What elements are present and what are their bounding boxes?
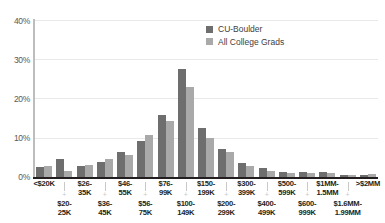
x-axis-labels: <$20K$20- 25K$26- 35K$36- 45K$46- 55K$56…: [34, 180, 378, 223]
x-axis-tick-plus: +: [61, 191, 67, 198]
x-axis-label: $100- 149K: [164, 200, 209, 217]
bar-0: [198, 128, 206, 177]
bar-1: [327, 173, 335, 177]
x-axis-tick-plus: +: [264, 191, 270, 198]
x-axis-tick-plus: +: [102, 191, 108, 198]
bar-1: [44, 166, 52, 177]
x-axis-tick-separator: [348, 182, 349, 191]
bar-group: [135, 20, 155, 177]
x-axis-tick-plus: +: [345, 191, 351, 198]
x-axis-tick-separator: [267, 182, 268, 191]
x-axis-tick-separator: [64, 182, 65, 191]
x-axis-label: $150- 199K: [184, 180, 229, 197]
x-axis-tick-plus: +: [304, 191, 310, 198]
legend-item-all-college-grads: All College Grads: [206, 37, 284, 47]
bar-1: [307, 173, 315, 177]
x-axis-tick-separator: [186, 182, 187, 191]
legend-swatch-icon-cu-boulder: [206, 26, 213, 33]
bar-group: [176, 20, 196, 177]
bar-group: [34, 20, 54, 177]
x-axis-label: $1MM- 1.5MM: [305, 180, 350, 197]
x-axis-tick-separator: [105, 182, 106, 191]
x-axis-tick-separator: [226, 182, 227, 191]
bar-0: [360, 175, 368, 177]
bar-1: [145, 135, 153, 177]
x-axis-label: $600- 999K: [285, 200, 330, 217]
bar-0: [218, 149, 226, 177]
bar-1: [287, 173, 295, 177]
bar-1: [348, 175, 356, 177]
bar-0: [319, 172, 327, 177]
bar-0: [117, 152, 125, 177]
bar-0: [178, 69, 186, 177]
legend-label-cu-boulder: CU-Boulder: [218, 24, 262, 34]
bar-1: [368, 174, 376, 177]
x-axis-label: $200- 299K: [204, 200, 249, 217]
legend-swatch-icon-all-college-grads: [206, 38, 213, 45]
x-axis-label: $300- 399K: [224, 180, 269, 197]
bar-0: [137, 141, 145, 178]
legend-label-all-college-grads: All College Grads: [218, 37, 284, 47]
legend-item-cu-boulder: CU-Boulder: [206, 24, 284, 34]
y-axis-label-30: 30%: [0, 55, 30, 65]
bar-1: [166, 121, 174, 177]
x-axis-tick-plus: +: [183, 191, 189, 198]
x-axis-label: $20- 25K: [42, 200, 87, 217]
x-axis-label: $1.6MM- 1.99MM: [325, 200, 370, 217]
bar-group: [95, 20, 115, 177]
bar-0: [158, 115, 166, 177]
bar-0: [97, 162, 105, 177]
x-axis-label: >$2MM: [346, 180, 385, 189]
bar-1: [105, 159, 113, 177]
bar-0: [259, 168, 267, 177]
x-axis-tick-plus: +: [142, 191, 148, 198]
bar-group: [155, 20, 175, 177]
x-axis-label: $46- 55K: [103, 180, 148, 197]
y-axis-label-40: 40%: [0, 16, 30, 26]
y-axis-label-10: 10%: [0, 133, 30, 143]
bar-1: [186, 87, 194, 177]
x-axis-tick-separator: [307, 182, 308, 191]
bar-1: [206, 138, 214, 177]
bar-0: [279, 172, 287, 177]
bar-0: [77, 166, 85, 177]
bar-1: [246, 166, 254, 177]
x-axis-label: $56- 75K: [123, 200, 168, 217]
bar-group: [317, 20, 337, 177]
bar-group: [358, 20, 378, 177]
x-axis-label: <$20K: [22, 180, 67, 189]
bar-1: [64, 171, 72, 177]
bar-0: [238, 163, 246, 177]
bar-0: [36, 167, 44, 177]
x-axis-label: $26- 35K: [62, 180, 107, 197]
bar-group: [115, 20, 135, 177]
x-axis-label: $36- 45K: [83, 200, 128, 217]
y-axis-label-20: 20%: [0, 94, 30, 104]
bar-0: [56, 159, 64, 177]
x-axis-label: $76- 99K: [143, 180, 188, 197]
x-axis-label: $500- 599K: [265, 180, 310, 197]
bar-1: [267, 171, 275, 177]
x-axis-label: $400- 499K: [244, 200, 289, 217]
bar-1: [226, 152, 234, 177]
x-axis-tick-plus: +: [223, 191, 229, 198]
bar-1: [125, 155, 133, 177]
bar-group: [297, 20, 317, 177]
bar-0: [299, 172, 307, 177]
chart-legend: CU-Boulder All College Grads: [206, 24, 284, 49]
bar-group: [54, 20, 74, 177]
bar-group: [338, 20, 358, 177]
bar-1: [85, 165, 93, 177]
bar-0: [340, 175, 348, 177]
bar-group: [74, 20, 94, 177]
x-axis-tick-separator: [145, 182, 146, 191]
